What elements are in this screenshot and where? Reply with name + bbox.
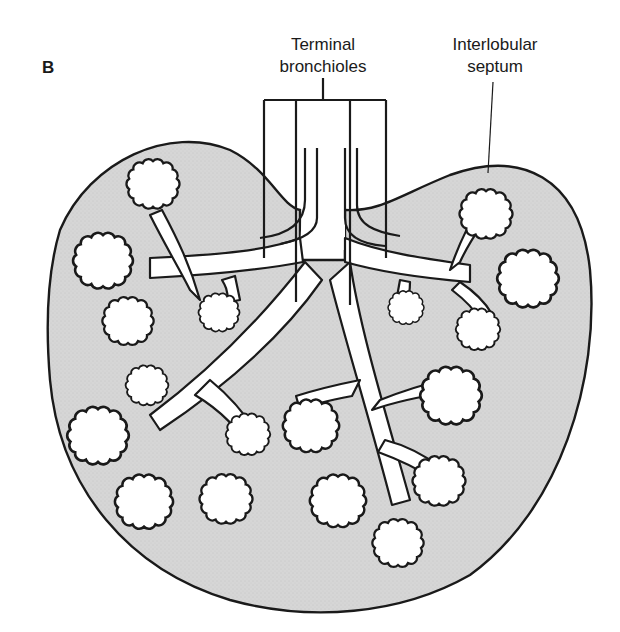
- leader-line-interlobular-septum: [488, 82, 493, 173]
- lobule-diagram: [0, 0, 620, 632]
